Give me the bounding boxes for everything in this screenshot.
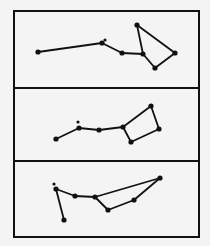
star-point bbox=[148, 103, 153, 108]
star-point bbox=[134, 22, 139, 27]
constellation-line bbox=[131, 129, 159, 142]
constellation-line bbox=[143, 54, 155, 68]
star-point bbox=[128, 139, 133, 144]
constellation-line bbox=[56, 128, 79, 139]
constellation-panel-3 bbox=[52, 175, 162, 222]
constellation-line bbox=[123, 106, 151, 127]
constellation-line bbox=[102, 43, 122, 53]
companion-star bbox=[103, 38, 106, 41]
star-point bbox=[131, 197, 136, 202]
star-point bbox=[53, 186, 58, 191]
constellation-figure bbox=[0, 0, 210, 246]
star-point bbox=[61, 217, 66, 222]
companion-star bbox=[52, 182, 55, 185]
constellation-line bbox=[75, 196, 95, 197]
star-point bbox=[35, 49, 40, 54]
star-point bbox=[156, 126, 161, 131]
star-point bbox=[119, 50, 124, 55]
star-point bbox=[53, 136, 58, 141]
constellation-line bbox=[95, 197, 108, 210]
star-point bbox=[120, 124, 125, 129]
star-point bbox=[140, 51, 145, 56]
constellation-line bbox=[122, 53, 143, 54]
constellation-line bbox=[79, 128, 99, 130]
constellation-panel-2 bbox=[53, 103, 161, 144]
constellation-line bbox=[95, 178, 160, 197]
star-point bbox=[157, 175, 162, 180]
star-point bbox=[105, 207, 110, 212]
star-point bbox=[172, 50, 177, 55]
constellation-line bbox=[56, 189, 64, 220]
constellation-line bbox=[56, 189, 75, 196]
constellation-line bbox=[99, 127, 123, 130]
constellation-panels bbox=[35, 22, 177, 222]
constellation-line bbox=[155, 53, 175, 68]
constellation-panel-1 bbox=[35, 22, 177, 70]
star-point bbox=[99, 40, 104, 45]
constellation-line bbox=[38, 43, 102, 52]
star-point bbox=[72, 193, 77, 198]
star-point bbox=[152, 65, 157, 70]
companion-star bbox=[76, 120, 79, 123]
star-point bbox=[96, 127, 101, 132]
star-point bbox=[76, 125, 81, 130]
star-point bbox=[92, 194, 97, 199]
constellation-line bbox=[151, 106, 159, 129]
constellation-line bbox=[108, 200, 134, 210]
